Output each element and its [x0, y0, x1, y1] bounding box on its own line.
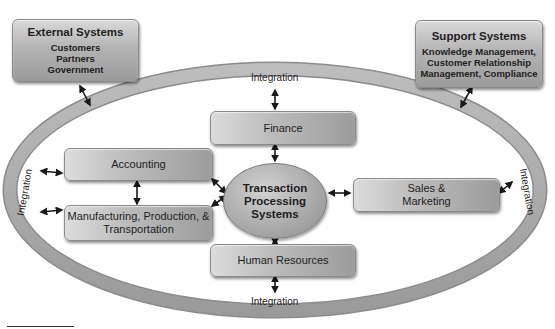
external-systems-item: Customers	[51, 42, 101, 53]
tps-line3: Systems	[243, 208, 308, 221]
sales-label-line2: Marketing	[402, 195, 450, 208]
support-systems-title: Support Systems	[432, 30, 527, 43]
integration-label-top: Integration	[251, 72, 298, 83]
finance-label: Finance	[263, 122, 302, 135]
human-resources-box: Human Resources	[210, 244, 356, 277]
arrow-sales-ring	[499, 182, 512, 193]
finance-box: Finance	[210, 111, 356, 145]
transaction-processing-systems: Transaction Processing Systems	[223, 163, 327, 239]
integration-label-bottom: Integration	[251, 296, 298, 307]
support-systems-line: Customer Relationship	[427, 57, 531, 68]
accounting-box: Accounting	[64, 148, 213, 181]
external-systems-title: External Systems	[28, 26, 124, 39]
manufacturing-label-line2: Transportation	[103, 223, 174, 236]
support-systems-line: Knowledge Management,	[422, 46, 536, 57]
manufacturing-box: Manufacturing, Production, & Transportat…	[64, 205, 213, 241]
footnote-rule	[7, 326, 74, 327]
manufacturing-label-line1: Manufacturing, Production, &	[68, 210, 210, 223]
support-systems-line: Management, Compliance	[420, 68, 537, 79]
sales-label-line1: Sales &	[408, 182, 446, 195]
external-systems-item: Partners	[56, 53, 95, 64]
external-systems-box: External Systems Customers Partners Gove…	[12, 19, 139, 82]
external-systems-item: Government	[48, 64, 104, 75]
tps-line2: Processing	[243, 195, 308, 208]
arrow-ring-accounting	[41, 171, 62, 173]
human-resources-label: Human Resources	[237, 254, 328, 267]
tps-line1: Transaction	[243, 182, 308, 195]
arrow-ring-manufacturing	[41, 210, 62, 212]
sales-marketing-box: Sales & Marketing	[353, 178, 500, 212]
accounting-label: Accounting	[111, 158, 165, 171]
support-systems-box: Support Systems Knowledge Management, Cu…	[415, 20, 543, 88]
